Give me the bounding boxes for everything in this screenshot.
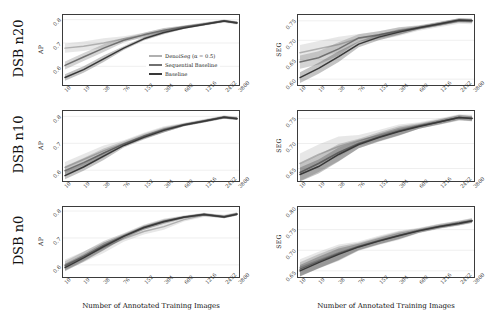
legend-item-2: Baseline xyxy=(149,70,217,78)
ytick-label-dsb-n0-seg-0: 0.65 xyxy=(283,270,297,284)
legend-swatch-0 xyxy=(149,55,162,57)
legend: DenoiSeg (α = 0.5)Sequential BaselineBas… xyxy=(146,50,220,81)
yaxis-title-dsb-n20-seg: SEG xyxy=(275,42,282,56)
ytick-label-dsb-n20-ap-2: 0.8 xyxy=(48,17,62,31)
row-label-2: DSB n0 xyxy=(11,205,26,277)
ytick-label-dsb-n10-seg-1: 0.70 xyxy=(283,141,297,155)
ytick-label-dsb-n10-ap-2: 0.8 xyxy=(48,113,62,127)
ytick-label-dsb-n0-ap-0: 0.6 xyxy=(48,263,62,277)
xaxis-title-col-0: Number of Annotated Training Images xyxy=(62,302,240,310)
yaxis-title-dsb-n10-ap: AP xyxy=(37,141,44,150)
ytick-label-dsb-n20-seg-1: 0.65 xyxy=(283,58,297,72)
ytick-label-dsb-n20-ap-0: 0.6 xyxy=(48,65,62,79)
ytick-label-dsb-n0-seg-3: 0.80 xyxy=(283,206,297,220)
row-label-1: DSB n10 xyxy=(11,109,26,181)
legend-label-0: DenoiSeg (α = 0.5) xyxy=(165,53,215,59)
legend-swatch-2 xyxy=(149,73,162,75)
chart-panel-dsb-n20-seg xyxy=(297,14,475,86)
ytick-label-dsb-n0-ap-2: 0.8 xyxy=(48,208,62,222)
ytick-label-dsb-n10-seg-2: 0.75 xyxy=(283,116,297,130)
yaxis-title-dsb-n0-seg: SEG xyxy=(275,234,282,248)
yaxis-title-dsb-n20-ap: AP xyxy=(37,45,44,54)
ytick-label-dsb-n20-seg-0: 0.60 xyxy=(283,78,297,92)
ytick-label-dsb-n20-ap-1: 0.7 xyxy=(48,41,62,55)
legend-swatch-1 xyxy=(149,64,162,66)
xaxis-title-col-1: Number of Annotated Training Images xyxy=(297,302,475,310)
yaxis-title-dsb-n0-ap: AP xyxy=(37,237,44,246)
legend-item-0: DenoiSeg (α = 0.5) xyxy=(149,52,217,60)
legend-label-1: Sequential Baseline xyxy=(165,62,217,68)
ytick-label-dsb-n10-seg-0: 0.65 xyxy=(283,167,297,181)
legend-item-1: Sequential Baseline xyxy=(149,61,217,69)
chart-panel-dsb-n10-seg xyxy=(297,110,475,182)
ytick-label-dsb-n10-ap-0: 0.6 xyxy=(48,169,62,183)
chart-panel-dsb-n0-ap xyxy=(62,206,240,278)
row-label-0: DSB n20 xyxy=(11,13,26,85)
chart-panel-dsb-n10-ap xyxy=(62,110,240,182)
legend-label-2: Baseline xyxy=(165,71,187,77)
yaxis-title-dsb-n10-seg: SEG xyxy=(275,138,282,152)
ytick-label-dsb-n0-seg-1: 0.70 xyxy=(283,248,297,262)
chart-panel-dsb-n0-seg xyxy=(297,206,475,278)
ytick-label-dsb-n20-seg-3: 0.75 xyxy=(283,18,297,32)
ytick-label-dsb-n0-ap-1: 0.7 xyxy=(48,236,62,250)
ytick-label-dsb-n10-ap-1: 0.7 xyxy=(48,141,62,155)
ytick-label-dsb-n20-seg-2: 0.70 xyxy=(283,38,297,52)
ytick-label-dsb-n0-seg-2: 0.75 xyxy=(283,227,297,241)
